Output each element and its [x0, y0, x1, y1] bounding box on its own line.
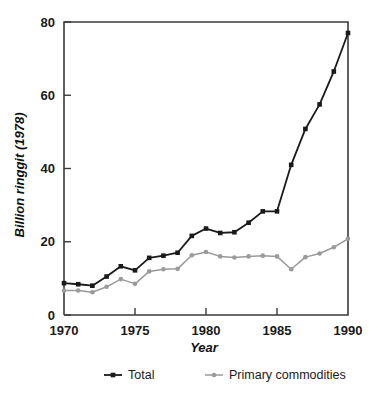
chart-axes	[64, 22, 348, 315]
data-point-marker	[317, 102, 322, 107]
data-point-marker	[204, 250, 209, 255]
legend-item-total[interactable]: Total	[104, 368, 154, 382]
data-point-marker	[147, 256, 152, 261]
data-point-marker	[161, 253, 166, 258]
y-tick-label: 40	[41, 161, 55, 176]
chart-tick-marks	[64, 22, 277, 315]
data-point-marker	[147, 269, 152, 274]
data-point-marker	[332, 245, 337, 250]
legend-item-primary-commodities[interactable]: Primary commodities	[205, 368, 346, 382]
data-point-marker	[119, 277, 124, 282]
data-point-marker	[133, 268, 138, 273]
data-point-marker	[161, 267, 166, 272]
data-point-marker	[204, 226, 209, 231]
data-point-marker	[346, 237, 351, 242]
data-point-marker	[104, 285, 109, 290]
y-tick-label: 0	[48, 308, 55, 323]
series-line	[64, 33, 348, 286]
y-axis-tick-labels: 020406080	[41, 15, 55, 323]
data-point-marker	[119, 264, 124, 269]
data-point-marker	[246, 220, 251, 225]
line-chart: 020406080 19701975198019851990 Billion r…	[0, 0, 378, 397]
data-point-marker	[190, 234, 195, 239]
data-point-marker	[190, 253, 195, 258]
legend-label: Primary commodities	[229, 368, 346, 382]
series-primary-commodities	[62, 237, 351, 295]
y-axis-title: Billion ringgit (1978)	[12, 113, 27, 238]
series-line	[64, 239, 348, 292]
data-point-marker	[175, 250, 180, 255]
data-point-marker	[90, 290, 95, 295]
chart-figure: 020406080 19701975198019851990 Billion r…	[0, 0, 378, 397]
chart-legend: TotalPrimary commodities	[104, 368, 346, 382]
data-point-marker	[246, 254, 251, 259]
y-tick-label: 60	[41, 88, 55, 103]
chart-series-group	[62, 31, 351, 295]
plot-frame	[64, 22, 348, 315]
y-tick-label: 80	[41, 15, 55, 30]
x-tick-label: 1990	[334, 323, 363, 338]
x-axis-tick-labels: 19701975198019851990	[50, 323, 363, 338]
series-total	[62, 31, 351, 288]
data-point-marker	[218, 254, 223, 259]
data-point-marker	[261, 253, 266, 258]
data-point-marker	[90, 283, 95, 288]
x-axis-title: Year	[190, 340, 219, 355]
data-point-marker	[232, 255, 237, 260]
data-point-marker	[275, 254, 280, 259]
data-point-marker	[332, 69, 337, 74]
y-tick-label: 20	[41, 234, 55, 249]
data-point-marker	[232, 230, 237, 235]
legend-label: Total	[128, 368, 154, 382]
data-point-marker	[317, 251, 322, 256]
data-point-marker	[275, 209, 280, 214]
legend-swatch-marker	[111, 373, 116, 378]
x-tick-label: 1985	[263, 323, 292, 338]
data-point-marker	[175, 267, 180, 272]
data-point-marker	[62, 281, 67, 286]
data-point-marker	[218, 231, 223, 236]
x-tick-label: 1975	[121, 323, 150, 338]
data-point-marker	[303, 127, 308, 132]
data-point-marker	[104, 274, 109, 279]
data-point-marker	[303, 255, 308, 260]
data-point-marker	[289, 163, 294, 168]
x-tick-label: 1970	[50, 323, 79, 338]
data-point-marker	[289, 267, 294, 272]
data-point-marker	[62, 288, 67, 293]
data-point-marker	[76, 288, 81, 293]
data-point-marker	[76, 282, 81, 287]
legend-swatch-marker	[212, 373, 217, 378]
data-point-marker	[346, 31, 351, 36]
data-point-marker	[261, 209, 266, 214]
x-tick-label: 1980	[192, 323, 221, 338]
data-point-marker	[133, 282, 138, 287]
